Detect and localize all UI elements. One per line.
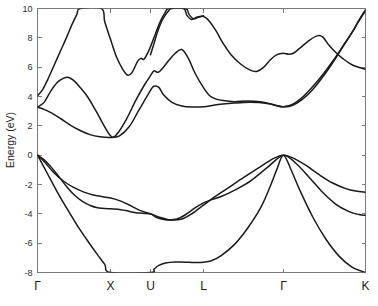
y-tick-label: 8 xyxy=(27,33,32,43)
y-tick-label: -6 xyxy=(24,238,32,248)
y-axis-title: Energy (eV) xyxy=(4,112,16,168)
y-tick-label: 6 xyxy=(27,62,32,72)
y-tick-label: -8 xyxy=(24,268,32,278)
x-tick-label: L xyxy=(200,279,207,293)
x-tick-label: Γ xyxy=(34,279,41,293)
y-tick-label: 0 xyxy=(27,150,32,160)
y-tick-label: -2 xyxy=(24,180,32,190)
band-structure-plot: -8-6-4-20246810 ΓXULΓK Energy (eV) xyxy=(0,0,378,306)
y-tick-label: 10 xyxy=(22,4,32,14)
x-tick-label: Γ xyxy=(280,279,287,293)
y-tick-label: -4 xyxy=(24,209,32,219)
x-tick-label: K xyxy=(361,279,369,293)
x-tick-label: U xyxy=(146,279,155,293)
band-structure-figure: -8-6-4-20246810 ΓXULΓK Energy (eV) xyxy=(0,0,378,306)
plot-background xyxy=(0,0,378,306)
y-tick-label: 4 xyxy=(27,92,32,102)
y-tick-label: 2 xyxy=(27,121,32,131)
x-tick-label: X xyxy=(107,279,115,293)
